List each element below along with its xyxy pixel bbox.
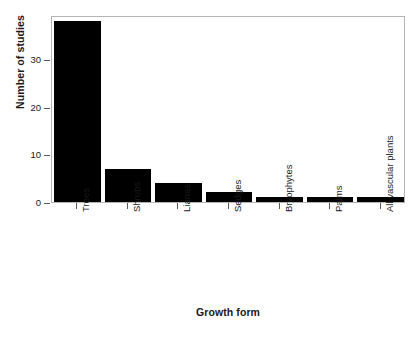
bar: [256, 197, 303, 202]
x-tick-mark: [76, 203, 77, 209]
bar: [206, 192, 253, 202]
x-tick-mark: [228, 203, 229, 209]
x-axis-title: Growth form: [51, 306, 405, 318]
bar: [54, 21, 101, 202]
plot-panel: [51, 16, 405, 203]
y-tick-mark: [44, 155, 50, 156]
bar: [155, 183, 202, 202]
x-tick-mark: [329, 203, 330, 209]
bar: [357, 197, 404, 202]
y-tick-label: 20: [1, 103, 41, 113]
x-tick-mark: [127, 203, 128, 209]
bar-chart-figure: Number of studies 0102030 TreesShrubsLia…: [0, 0, 418, 337]
y-tick-label: 10: [1, 150, 41, 160]
plot-area: [52, 17, 404, 202]
y-axis-ticks: 0102030: [0, 0, 51, 337]
x-tick-mark: [380, 203, 381, 209]
y-tick-label: 30: [1, 55, 41, 65]
y-tick-label: 0: [1, 198, 41, 208]
bar: [105, 169, 152, 202]
bar: [307, 197, 354, 202]
x-tick-mark: [177, 203, 178, 209]
y-tick-mark: [44, 60, 50, 61]
x-tick-mark: [279, 203, 280, 209]
y-tick-mark: [44, 108, 50, 109]
y-tick-mark: [44, 203, 50, 204]
